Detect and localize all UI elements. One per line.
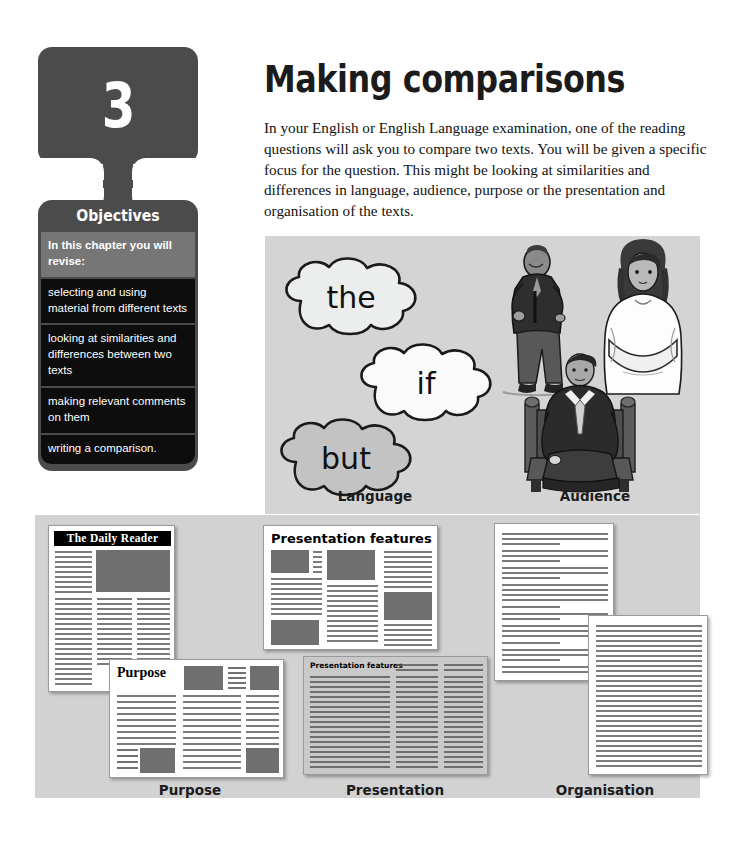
document-organisation-bottom bbox=[588, 615, 708, 775]
objective-item: making relevant comments on them bbox=[41, 388, 195, 433]
document-purpose: Purpose bbox=[109, 659, 284, 778]
thought-cloud-if: if bbox=[350, 341, 502, 425]
chapter-number-tab: 3 bbox=[38, 47, 198, 164]
objectives-intro: In this chapter you will revise: bbox=[41, 232, 195, 277]
objective-item: selecting and using material from differ… bbox=[41, 279, 195, 324]
objective-item: writing a comparison. bbox=[41, 435, 195, 464]
caption-organisation: Organisation bbox=[505, 782, 705, 798]
cloud-word: the bbox=[275, 280, 427, 315]
print-through-artifact bbox=[150, 492, 270, 514]
document-presentation-table: Presentation features bbox=[303, 656, 488, 775]
objective-item: looking at similarities and differences … bbox=[41, 325, 195, 386]
objectives-title: Objectives bbox=[48, 200, 189, 232]
tab-notch-left-top bbox=[38, 158, 104, 180]
documents-panel: The Daily Reader bbox=[35, 515, 700, 798]
caption-audience: Audience bbox=[505, 488, 685, 504]
caption-language: Language bbox=[285, 488, 465, 504]
cloud-word: but bbox=[270, 441, 422, 476]
objectives-box: Objectives In this chapter you will revi… bbox=[38, 200, 198, 471]
caption-purpose: Purpose bbox=[90, 782, 290, 798]
chapter-number: 3 bbox=[102, 75, 135, 137]
page-title: Making comparisons bbox=[264, 58, 625, 101]
illustration-panel: the if but bbox=[265, 236, 700, 514]
chapter-page: 3 Objectives In this chapter you will re… bbox=[0, 0, 733, 843]
cloud-word: if bbox=[350, 366, 502, 401]
intro-paragraph: In your English or English Language exam… bbox=[264, 118, 716, 222]
tab-notch-right-top bbox=[132, 158, 198, 180]
seated-man-in-suit-figure bbox=[505, 348, 655, 496]
document-presentation-features: Presentation features bbox=[263, 525, 438, 650]
caption-presentation: Presentation bbox=[300, 782, 490, 798]
thought-cloud-the: the bbox=[275, 255, 427, 339]
